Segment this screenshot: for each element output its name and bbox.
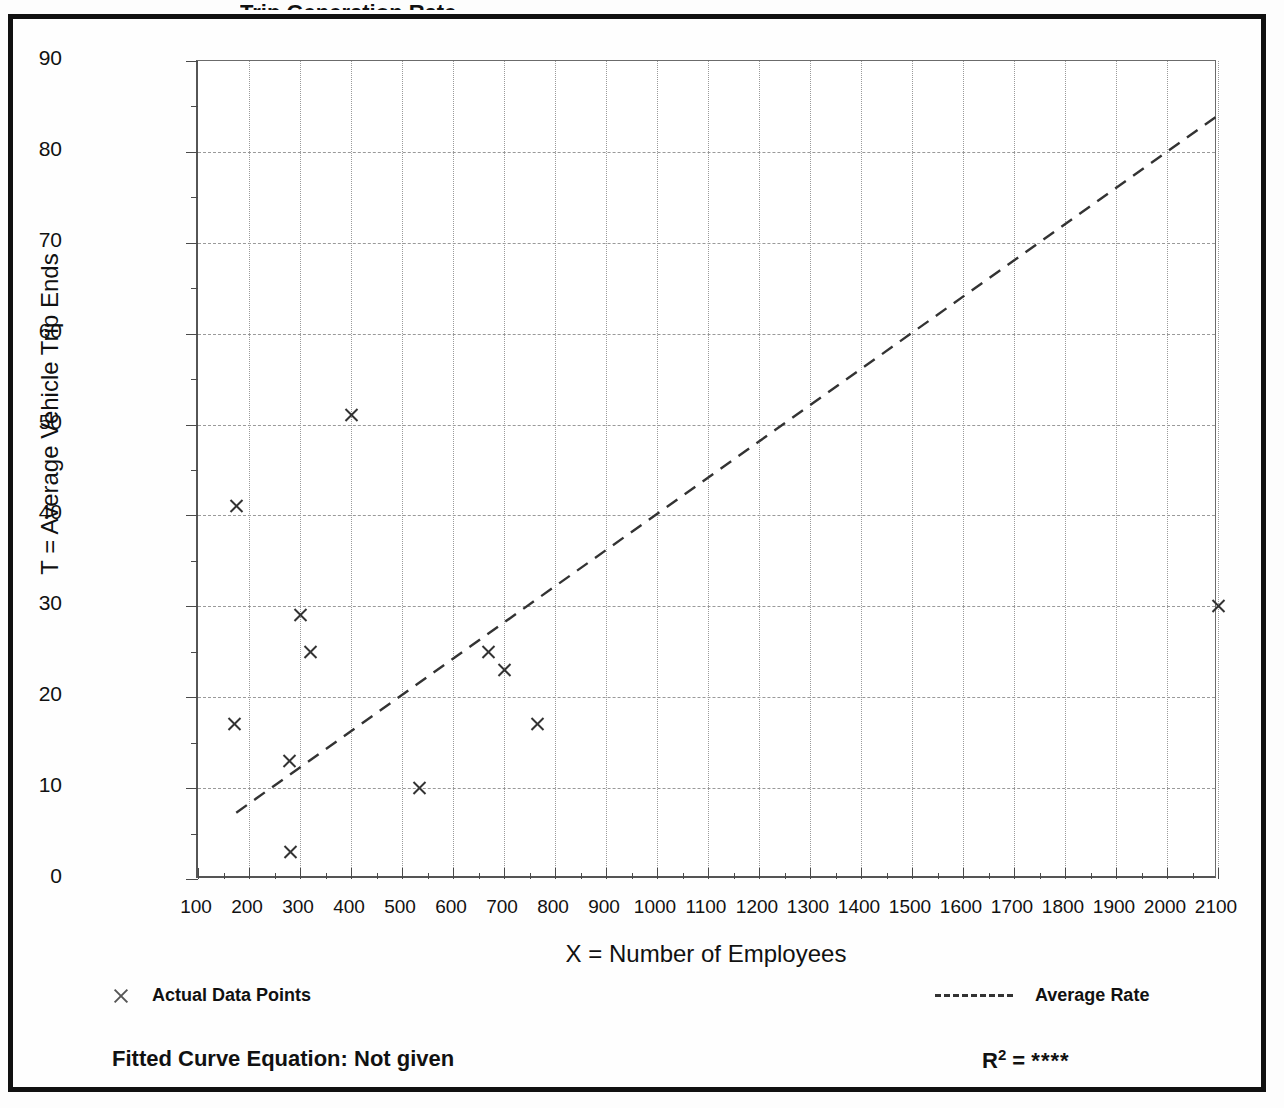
y-axis-minor-tick [191, 106, 198, 107]
x-axis-tick-label: 900 [588, 896, 620, 918]
y-axis-tick [186, 61, 198, 62]
y-axis-tick-label: 80 [39, 137, 62, 161]
x-axis-tick-label: 1300 [787, 896, 829, 918]
legend-item-actual-data-points: Actual Data Points [112, 985, 311, 1006]
x-axis-tick-label: 200 [231, 896, 263, 918]
y-axis-tick [186, 515, 198, 516]
x-axis-tick-label: 500 [384, 896, 416, 918]
r2-equals: = [1012, 1048, 1025, 1073]
y-axis-tick [186, 697, 198, 698]
x-axis-tick [1218, 868, 1219, 879]
x-axis-tick-label: 400 [333, 896, 365, 918]
y-axis-tick-label: 10 [39, 773, 62, 797]
average-rate-line [236, 116, 1218, 813]
y-axis-tick-label: 90 [39, 46, 62, 70]
x-axis-tick-label: 1800 [1042, 896, 1084, 918]
legend-label-points: Actual Data Points [152, 985, 311, 1006]
y-axis-tick-label: 0 [50, 864, 62, 888]
x-axis-tick-label: 2000 [1144, 896, 1186, 918]
y-axis-tick-label: 50 [39, 410, 62, 434]
x-axis-tick-label: 300 [282, 896, 314, 918]
fitted-curve-equation: Fitted Curve Equation: Not given [112, 1046, 454, 1072]
y-axis-tick [186, 425, 198, 426]
r2-exponent: 2 [998, 1046, 1006, 1063]
x-marker-icon [112, 987, 130, 1005]
x-axis-tick-label: 800 [537, 896, 569, 918]
x-axis-title: X = Number of Employees [196, 940, 1216, 968]
dashed-line-icon [935, 994, 1013, 997]
grid-line-vertical [1218, 61, 1219, 876]
y-axis-tick-label: 30 [39, 591, 62, 615]
legend-label-line: Average Rate [1035, 985, 1149, 1006]
y-axis-tick-label: 20 [39, 682, 62, 706]
x-axis-tick-label: 1000 [634, 896, 676, 918]
y-axis-minor-tick [191, 288, 198, 289]
x-axis-tick-label: 1600 [940, 896, 982, 918]
x-axis-tick-label: 100 [180, 896, 212, 918]
trend-line-layer [198, 61, 1218, 879]
x-axis-tick-label: 1500 [889, 896, 931, 918]
x-axis-tick-label: 1400 [838, 896, 880, 918]
y-axis-tick [186, 334, 198, 335]
y-axis-minor-tick [191, 561, 198, 562]
legend: Actual Data Points Average Rate [100, 985, 1200, 1025]
y-axis-tick [186, 243, 198, 244]
figure-footer: Fitted Curve Equation: Not given R2 = **… [100, 1046, 1200, 1086]
chart-page: Trip Generation Rate T = Average Vehicle… [0, 0, 1284, 1108]
legend-item-average-rate: Average Rate [935, 985, 1149, 1006]
r-squared-value: R2 = **** [982, 1046, 1070, 1074]
r2-symbol: R [982, 1048, 998, 1073]
y-axis-tick [186, 788, 198, 789]
y-axis-minor-tick [191, 652, 198, 653]
y-axis-tick-label: 40 [39, 500, 62, 524]
y-axis-minor-tick [191, 743, 198, 744]
plot-area [196, 60, 1216, 878]
y-axis-tick [186, 606, 198, 607]
x-axis-tick-label: 1900 [1093, 896, 1135, 918]
x-axis-tick-label: 2100 [1195, 896, 1237, 918]
y-axis-minor-tick [191, 834, 198, 835]
y-axis-tick [186, 152, 198, 153]
r2-stars: **** [1031, 1048, 1069, 1073]
y-axis-tick-label: 60 [39, 319, 62, 343]
y-axis-tick [186, 879, 198, 880]
x-axis-tick-label: 1100 [686, 896, 727, 918]
figure-title: Trip Generation Rate [240, 0, 760, 10]
y-axis-minor-tick [191, 197, 198, 198]
x-axis-tick-label: 600 [435, 896, 467, 918]
x-axis-tick-label: 1200 [736, 896, 778, 918]
x-axis-tick-label: 700 [486, 896, 518, 918]
y-axis-tick-label: 70 [39, 228, 62, 252]
y-axis-minor-tick [191, 470, 198, 471]
x-axis-tick-label: 1700 [991, 896, 1033, 918]
y-axis-minor-tick [191, 379, 198, 380]
